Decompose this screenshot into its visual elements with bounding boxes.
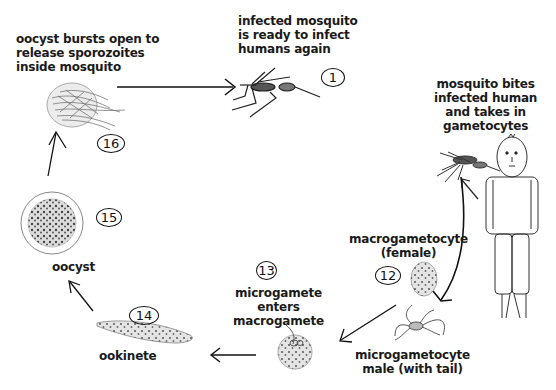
infected-mosquito-icon [232,68,320,117]
stage-number-13: 13 [256,261,277,280]
human-figure-icon [486,134,538,318]
stage-number-15: 15 [96,208,122,227]
arrow-sporozoites-to-mosquito [117,79,235,95]
arrow-to-oocyst [69,281,93,311]
stage-number-1: 1 [321,68,345,87]
label-oocyst-bursts: oocyst bursts open to release sporozoite… [16,32,159,74]
arrow-to-ookinete [211,348,256,362]
label-microgametocyte: microgametocyte male (with tail) [355,348,470,376]
label-mosquito-bites-human: mosquito bites infected human and takes … [434,77,537,133]
label-microgamete-enters: microgamete enters macrogamete [233,286,324,328]
label-ookinete: ookinete [99,349,157,363]
malaria-lifecycle-diagram: infected mosquito is ready to infect hum… [0,0,556,390]
stage-number-14: 14 [129,306,159,325]
stage-number-12: 12 [375,266,401,285]
arrow-to-fertilization [340,305,396,342]
label-oocyst: oocyst [52,260,95,274]
bursting-oocyst-icon [47,83,125,130]
arrow-into-mosquito [462,179,478,199]
label-macrogametocyte: macrogametocyte (female) [349,232,468,260]
stage-number-16: 16 [97,134,125,153]
arrow-to-bursting-oocyst [48,132,66,176]
label-infected-mosquito: infected mosquito is ready to infect hum… [238,14,358,56]
microgametocyte-cell [395,305,444,340]
